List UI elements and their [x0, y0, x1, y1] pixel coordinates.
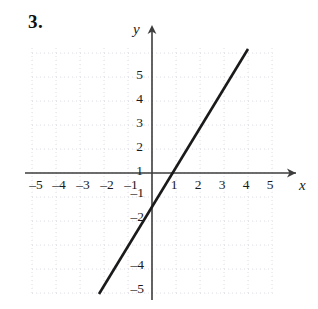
y-tick-label-1: 1 — [131, 164, 143, 178]
x-tick-label--5: –5 — [29, 178, 43, 192]
x-tick-label--3: –3 — [76, 178, 90, 192]
y-tick-label-3: 3 — [131, 116, 143, 130]
y-tick-label-2: 2 — [131, 140, 143, 154]
x-tick-label-1: 1 — [169, 178, 179, 192]
coordinate-plane — [0, 0, 318, 309]
y-tick-label-4: 4 — [131, 92, 143, 106]
y-tick-label--5: –5 — [128, 282, 144, 296]
y-axis-label: y — [133, 22, 140, 37]
problem-number: 3. — [28, 12, 43, 31]
x-axis-label: x — [299, 178, 306, 193]
y-tick-label--4: –4 — [128, 258, 144, 272]
x-tick-label-2: 2 — [193, 178, 203, 192]
x-tick-label-5: 5 — [265, 178, 275, 192]
x-tick-label-4: 4 — [241, 178, 251, 192]
graph-figure: 3. — [0, 0, 318, 309]
y-tick-label--1: –1 — [128, 186, 144, 200]
x-tick-label-3: 3 — [217, 178, 227, 192]
x-tick-label--4: –4 — [52, 178, 66, 192]
y-tick-label-5: 5 — [131, 68, 143, 82]
y-tick-label--2: –2 — [128, 210, 144, 224]
x-tick-label--2: –2 — [100, 178, 114, 192]
